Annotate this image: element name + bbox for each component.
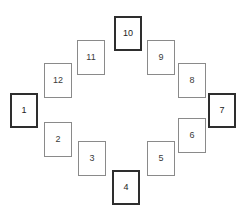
card-label: 5 — [158, 154, 163, 163]
card-3[interactable]: 3 — [78, 141, 106, 176]
card-label: 8 — [189, 76, 194, 85]
clock-layout-diagram: 123456789101112 — [0, 0, 246, 221]
card-11[interactable]: 11 — [77, 40, 105, 75]
card-label: 10 — [123, 29, 133, 38]
card-label: 7 — [219, 106, 224, 115]
card-10[interactable]: 10 — [114, 16, 142, 51]
card-label: 11 — [86, 53, 96, 62]
card-label: 9 — [158, 53, 163, 62]
card-label: 6 — [189, 131, 194, 140]
card-9[interactable]: 9 — [147, 40, 175, 75]
card-1[interactable]: 1 — [10, 93, 38, 128]
card-8[interactable]: 8 — [178, 63, 206, 98]
card-2[interactable]: 2 — [44, 122, 72, 157]
card-label: 1 — [21, 106, 26, 115]
card-4[interactable]: 4 — [112, 170, 140, 205]
card-label: 3 — [89, 154, 94, 163]
card-label: 4 — [123, 183, 128, 192]
card-label: 12 — [53, 76, 63, 85]
card-6[interactable]: 6 — [178, 118, 206, 153]
card-5[interactable]: 5 — [147, 141, 175, 176]
card-12[interactable]: 12 — [44, 63, 72, 98]
card-label: 2 — [55, 135, 60, 144]
card-7[interactable]: 7 — [208, 93, 236, 128]
